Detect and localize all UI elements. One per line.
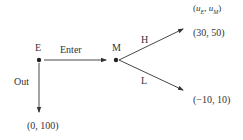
edge-low-label: L	[141, 76, 147, 86]
node-m-dot	[114, 58, 118, 62]
payoff-low: (−10, 10)	[193, 95, 230, 105]
game-tree-edges	[0, 0, 243, 140]
edge-high-label: H	[141, 35, 148, 45]
payoff-header: (uE, uM)	[193, 4, 221, 15]
edge-high	[119, 29, 183, 60]
node-m-label: M	[112, 43, 121, 53]
edge-enter-label: Enter	[60, 45, 82, 55]
payoff-out: (0, 100)	[27, 121, 59, 131]
node-e-dot	[37, 58, 41, 62]
node-e-label: E	[35, 43, 41, 53]
edge-low	[119, 60, 183, 90]
payoff-high: (30, 50)	[193, 28, 225, 38]
edge-out-label: Out	[14, 77, 29, 87]
